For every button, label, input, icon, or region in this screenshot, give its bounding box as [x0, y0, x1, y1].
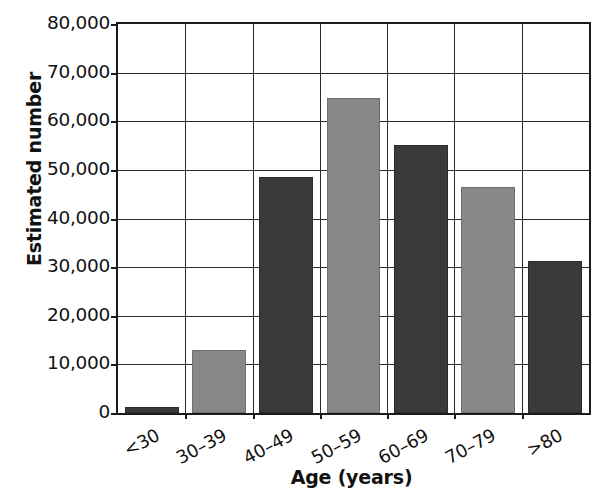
y-axis-tick-label: 10,000: [24, 352, 110, 373]
y-axis-tick-mark: [111, 267, 118, 269]
y-axis-tick-mark: [111, 316, 118, 318]
y-axis-tick-mark: [111, 121, 118, 123]
y-axis-tick-mark: [111, 170, 118, 172]
y-axis-tick-label: 30,000: [24, 255, 110, 276]
y-axis-tick-mark: [111, 73, 118, 75]
y-axis-tick-label: 80,000: [24, 12, 110, 33]
bar-50-59: [327, 98, 381, 413]
bar-chart: Estimated number 010,00020,00030,00040,0…: [0, 0, 591, 496]
bar-30-39: [192, 350, 246, 413]
y-axis-tick-labels: 010,00020,00030,00040,00050,00060,00070,…: [24, 0, 110, 440]
x-axis-tick-label: 50–59: [307, 424, 364, 468]
x-axis-tick-label: <30: [120, 424, 163, 460]
x-axis-tick-label: >80: [523, 424, 566, 460]
bar-40-49: [259, 177, 313, 413]
x-axis-tick-label: 60–69: [374, 424, 431, 468]
y-axis-tick-label: 20,000: [24, 303, 110, 324]
x-axis-title: Age (years): [116, 466, 587, 488]
bar-60-69: [394, 145, 448, 413]
y-axis-tick-label: 50,000: [24, 157, 110, 178]
x-axis-tick-label: 70–79: [442, 424, 499, 468]
plot-area: [116, 22, 591, 415]
x-axis-tick-label: 40–49: [240, 424, 297, 468]
y-axis-tick-label: 60,000: [24, 109, 110, 130]
y-axis-tick-mark: [111, 24, 118, 26]
bars-layer: [118, 24, 589, 413]
bar-80: [528, 261, 582, 413]
x-axis-tick-label: 30–39: [173, 424, 230, 468]
x-axis-tick-labels: <3030–3940–4950–5960–6970–79>80: [116, 411, 587, 471]
y-axis-tick-mark: [111, 219, 118, 221]
y-axis-tick-mark: [111, 364, 118, 366]
y-axis-tick-label: 40,000: [24, 206, 110, 227]
bar-70-79: [461, 187, 515, 413]
y-axis-tick-label: 70,000: [24, 60, 110, 81]
y-axis-tick-label: 0: [24, 401, 110, 422]
